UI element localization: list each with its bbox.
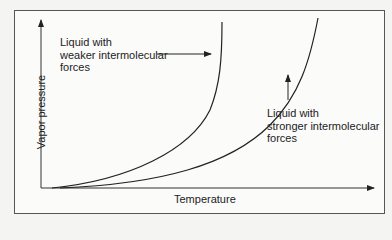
annotation-line: forces — [60, 61, 168, 74]
annotation-line: Liquid with — [60, 36, 168, 49]
annotation-line: Liquid with — [267, 107, 380, 120]
annotation-weaker: Liquid with weaker intermolecular forces — [60, 36, 168, 74]
annotation-line: weaker intermolecular — [60, 49, 168, 62]
annotation-stronger: Liquid with stronger intermolecular forc… — [267, 107, 380, 145]
y-axis-label: Vapor pressure — [35, 67, 47, 157]
annotation-line: stronger intermolecular — [267, 120, 380, 133]
annotation-line: forces — [267, 132, 380, 145]
x-axis-label: Temperature — [174, 193, 236, 206]
